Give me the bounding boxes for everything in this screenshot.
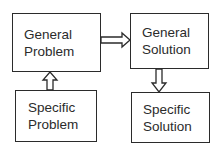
node-label: General Problem	[24, 26, 74, 60]
node-label-line: Problem	[24, 43, 74, 60]
node-specific-problem: Specific Problem	[15, 90, 97, 142]
node-label-line: Solution	[143, 118, 192, 135]
node-label: General Solution	[142, 24, 191, 58]
node-label: Specific Solution	[143, 101, 192, 135]
node-label-line: Solution	[142, 41, 191, 58]
arrow-specific-problem-to-general-problem	[43, 72, 57, 90]
node-specific-solution: Specific Solution	[131, 92, 210, 143]
node-label-line: Specific	[143, 101, 192, 118]
node-label-line: Problem	[28, 116, 78, 133]
node-general-solution: General Solution	[130, 13, 209, 69]
arrow-general-problem-to-general-solution	[101, 33, 130, 47]
node-label: Specific Problem	[28, 99, 78, 133]
node-label-line: Specific	[28, 99, 78, 116]
node-label-line: General	[24, 26, 74, 43]
node-general-problem: General Problem	[12, 13, 101, 72]
node-label-line: General	[142, 24, 191, 41]
arrow-general-solution-to-specific-solution	[152, 69, 166, 92]
